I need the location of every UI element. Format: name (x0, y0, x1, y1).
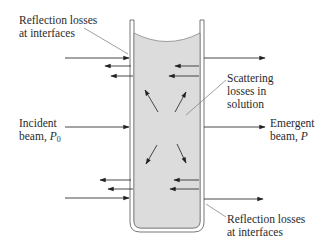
emergent-prefix: beam, (270, 130, 301, 142)
solution-fill (134, 33, 200, 228)
label-scattering: Scattering losses in solution (227, 72, 274, 111)
emergent-line1: Emergent (270, 117, 315, 130)
incident-line2: beam, P0 (19, 130, 61, 146)
scattering-line1: Scattering (227, 72, 274, 85)
reflection-top-line2: at interfaces (19, 27, 97, 40)
reflection-bottom-line2: at interfaces (227, 226, 305, 239)
scattering-line3: solution (227, 98, 274, 111)
scattering-line2: losses in (227, 85, 274, 98)
reflection-bottom-leader (206, 204, 226, 217)
incident-line1: Incident (19, 117, 61, 130)
reflection-bottom-line1: Reflection losses (227, 213, 305, 226)
emergent-line2: beam, P (270, 130, 315, 143)
label-reflection-top: Reflection losses at interfaces (19, 14, 97, 40)
incident-prefix: beam, (19, 130, 50, 142)
emergent-symbol: P (301, 130, 308, 142)
reflection-top-line1: Reflection losses (19, 14, 97, 27)
incident-subscript: 0 (57, 135, 61, 144)
label-emergent-beam: Emergent beam, P (270, 117, 315, 143)
incident-symbol: P (50, 130, 57, 142)
label-incident-beam: Incident beam, P0 (19, 117, 61, 146)
label-reflection-bottom: Reflection losses at interfaces (227, 213, 305, 239)
